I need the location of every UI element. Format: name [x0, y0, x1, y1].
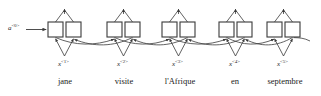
word-label-4: en: [213, 77, 257, 86]
word-label-1: jane: [40, 77, 90, 86]
input-label-5: x<5>: [277, 59, 288, 68]
brnn-diagram-figure: a<0> x<1> x<2> x<3> x<4> x<5> jane visit…: [0, 0, 321, 96]
a-forward-box-3: [162, 22, 177, 37]
word-label-3: l'Afrique: [151, 77, 209, 86]
timestep-group-3: [162, 9, 195, 56]
timestep-group-4: [219, 9, 252, 56]
input-label-1: x<1>: [58, 59, 69, 68]
a-forward-box-4: [219, 22, 234, 37]
timestep-group-5: [267, 9, 300, 56]
timestep-group-2: [107, 9, 140, 56]
a-backward-box-5: [285, 22, 300, 37]
input-label-3: x<3>: [172, 59, 183, 68]
input-label-4: x<4>: [229, 59, 240, 68]
a-backward-box-1: [66, 22, 81, 37]
word-label-5: septembre: [255, 77, 315, 86]
a-forward-box-5: [267, 22, 282, 37]
a-backward-box-2: [125, 22, 140, 37]
word-label-2: visite: [99, 77, 149, 86]
a-backward-box-4: [237, 22, 252, 37]
input-label-2: x<2>: [117, 59, 128, 68]
timestep-group-1: [48, 9, 81, 56]
initial-activation-label: a<0>: [8, 23, 19, 32]
a-forward-box-2: [107, 22, 122, 37]
a-forward-box-1: [48, 22, 63, 37]
a-backward-box-3: [180, 22, 195, 37]
